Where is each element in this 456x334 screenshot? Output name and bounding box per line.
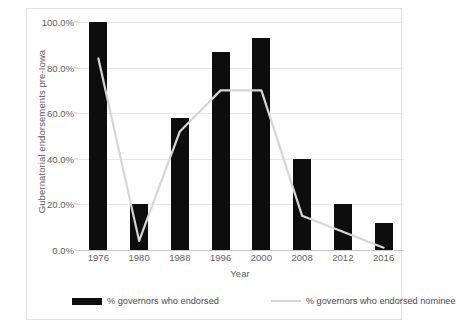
x-tick-label: 1980 [119, 252, 160, 263]
legend-item-bars: % governors who endorsed [72, 296, 219, 306]
y-tick-label: 60.0% [14, 108, 74, 119]
y-tick-label: 80.0% [14, 62, 74, 73]
x-tick-label: 1988 [160, 252, 201, 263]
x-axis-title: Year [64, 268, 416, 279]
x-tick-label: 2012 [323, 252, 364, 263]
legend-bar-label: % governors who endorsed [107, 296, 219, 306]
gridline [78, 250, 404, 251]
y-tick-label: 0.0% [14, 245, 74, 256]
plot-area: 0.0%20.0%40.0%60.0%80.0%100.0% [78, 22, 404, 250]
y-tick-label: 20.0% [14, 199, 74, 210]
legend-bar-swatch-icon [72, 298, 102, 305]
x-tick-label: 2008 [282, 252, 323, 263]
legend-item-line: % governors who endorsed nominee [271, 296, 456, 306]
x-tick-label: 1996 [200, 252, 241, 263]
y-tick-label: 100.0% [14, 17, 74, 28]
x-axis-ticks: 19761980198819962000200820122016 [78, 252, 404, 263]
y-tick-label: 40.0% [14, 153, 74, 164]
line-series [78, 22, 404, 250]
x-tick-label: 2000 [241, 252, 282, 263]
legend-line-label: % governors who endorsed nominee [306, 296, 456, 306]
x-tick-label: 2016 [363, 252, 404, 263]
x-tick-label: 1976 [78, 252, 119, 263]
legend-line-swatch-icon [271, 300, 301, 302]
chart-legend: % governors who endorsed % governors who… [36, 296, 394, 306]
